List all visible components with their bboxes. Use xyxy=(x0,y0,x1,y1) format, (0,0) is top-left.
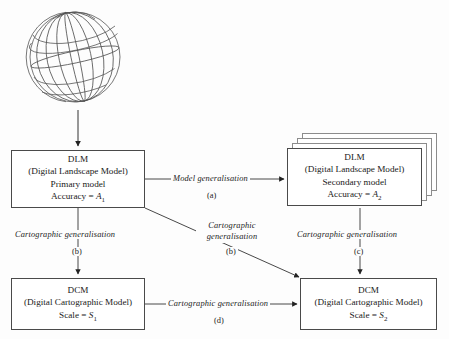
dcm-primary-scale: Scale = S1 xyxy=(59,309,97,324)
dlm-secondary-accuracy-sub: 2 xyxy=(378,194,382,202)
edge-label-b-diagonal-line2: generalisation xyxy=(207,232,258,241)
dlm-secondary-subtitle: (Digital Landscape Model) xyxy=(305,163,405,175)
node-dlm-secondary[interactable]: DLM (Digital Landscape Model) Secondary … xyxy=(287,148,422,206)
edge-tag-b-diagonal: (b) xyxy=(224,247,238,256)
edge-label-b-diagonal: Cartographic generalisation xyxy=(196,221,268,243)
globe-icon xyxy=(26,5,121,109)
edge-tag-c: (c) xyxy=(352,247,365,256)
dcm-primary-title: DCM xyxy=(68,284,89,296)
dlm-primary-accuracy: Accuracy = A1 xyxy=(51,190,105,205)
dcm-primary-scale-sub: 1 xyxy=(93,314,97,322)
dcm-secondary-scale-sub: 2 xyxy=(384,314,388,322)
dlm-primary-kind: Primary model xyxy=(51,178,106,190)
node-dcm-secondary[interactable]: DCM (Digital Cartographic Model) Scale =… xyxy=(300,278,437,330)
edge-tag-a: (a) xyxy=(205,191,218,200)
dlm-primary-accuracy-prefix: Accuracy = xyxy=(51,191,96,201)
dcm-primary-subtitle: (Digital Cartographic Model) xyxy=(24,296,132,308)
edge-label-d: Cartographic generalisation xyxy=(166,299,270,308)
edge-b-diagonal-cartographic-generalisation xyxy=(145,208,299,277)
edge-label-b-left: Cartographic generalisation xyxy=(13,230,117,239)
dlm-primary-accuracy-sub: 1 xyxy=(102,196,106,204)
dlm-secondary-accuracy: Accuracy = A2 xyxy=(327,188,381,203)
dlm-primary-title: DLM xyxy=(68,153,88,165)
dlm-secondary-kind: Secondary model xyxy=(322,176,386,188)
edge-label-a: Model generalisation xyxy=(171,174,250,183)
edge-label-b-diagonal-line1: Cartographic xyxy=(208,221,255,230)
dcm-primary-scale-prefix: Scale = xyxy=(59,310,89,320)
dlm-secondary-accuracy-prefix: Accuracy = xyxy=(327,189,372,199)
edge-label-c: Cartographic generalisation xyxy=(295,230,399,239)
diagram-canvas: DLM (Digital Landscape Model) Primary mo… xyxy=(0,0,449,339)
dlm-secondary-title: DLM xyxy=(344,151,364,163)
dcm-secondary-scale: Scale = S2 xyxy=(350,309,388,324)
dcm-secondary-subtitle: (Digital Cartographic Model) xyxy=(314,296,422,308)
node-dcm-primary[interactable]: DCM (Digital Cartographic Model) Scale =… xyxy=(11,278,145,330)
node-dlm-primary[interactable]: DLM (Digital Landscape Model) Primary mo… xyxy=(11,150,145,208)
edge-tag-b-left: (b) xyxy=(70,247,84,256)
edge-tag-d: (d) xyxy=(212,316,226,325)
dlm-primary-subtitle: (Digital Landscape Model) xyxy=(28,165,128,177)
dcm-secondary-scale-prefix: Scale = xyxy=(350,310,380,320)
dcm-secondary-title: DCM xyxy=(358,284,379,296)
